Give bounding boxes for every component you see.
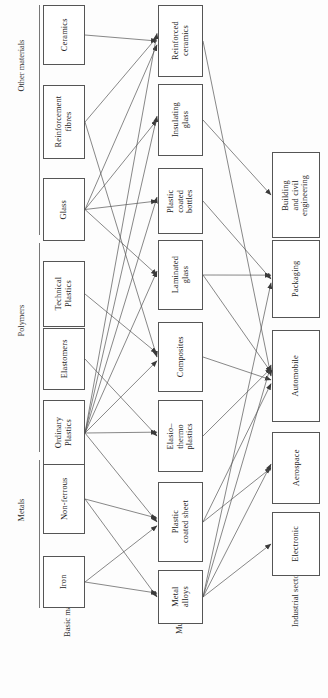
node-aerospace[interactable]: Aerospace xyxy=(272,432,320,504)
node-label-non-ferrous: Non-ferrous xyxy=(59,478,69,521)
node-technical-plastics[interactable]: Technical Plastics xyxy=(43,261,85,327)
node-composites[interactable]: Composites xyxy=(158,322,203,392)
group-label-other-materials-text: Other materials xyxy=(17,78,26,92)
node-label-technical-plastics: Technical Plastics xyxy=(54,277,73,311)
edge-laminated-glass-to-automobile xyxy=(203,275,271,372)
bracket-other-materials xyxy=(39,5,40,235)
node-label-elasto-thermo-plastics: Elasio– thermo plastics xyxy=(166,423,195,449)
bracket-polymers xyxy=(39,243,40,452)
node-label-metal-alloys: Metal alloys xyxy=(171,587,190,608)
edge-elasto-thermo-plastics-to-automobile xyxy=(203,368,271,436)
node-label-ceramics: Ceramics xyxy=(59,19,69,52)
node-label-laminated-glass: Laminated glass xyxy=(171,256,190,293)
node-packaging[interactable]: Packaging xyxy=(272,240,320,318)
column-label-basic-materials-text: Basic materials xyxy=(62,623,72,637)
node-automobile[interactable]: Automobile xyxy=(272,330,320,422)
node-label-building-civil-engineering: Building and civil engineering xyxy=(282,174,311,215)
edge-metal-alloys-to-packaging xyxy=(203,283,271,597)
node-label-iron: Iron xyxy=(59,575,69,590)
node-non-ferrous[interactable]: Non-ferrous xyxy=(43,464,85,534)
node-ordinary-plastics[interactable]: Ordinary Plastics xyxy=(43,400,85,466)
column-label-basic-materials: Basic materials xyxy=(60,625,74,685)
group-label-polymers-text: Polymers xyxy=(17,323,26,337)
edge-plastic-coated-bottles-to-packaging xyxy=(203,201,271,279)
edge-glass-to-reinforced-ceramics xyxy=(85,45,157,210)
node-label-aerospace: Aerospace xyxy=(291,450,301,487)
node-reinforcement-fibres[interactable]: Reinforcement fibres xyxy=(43,85,85,159)
edge-ordinary-plastics-to-insulating-glass xyxy=(85,116,157,433)
edge-ordinary-plastics-to-elasto-thermo-plastics xyxy=(85,432,157,433)
edge-composites-to-automobile xyxy=(203,357,271,380)
edge-ceramics-to-reinforced-ceramics xyxy=(85,35,157,41)
column-label-industrial-sectors-text: Industrial sectors xyxy=(290,613,300,627)
node-plastic-coated-bottles[interactable]: Plastic coated bottles xyxy=(158,168,203,234)
node-label-insulating-glass: Insulating glass xyxy=(171,103,190,138)
edge-plastic-coated-sheet-to-aerospace xyxy=(203,468,271,522)
diagram-canvas: Other materials Polymers Metals Basic ma… xyxy=(0,0,328,698)
node-reinforced-ceramics[interactable]: Reinforced ceramics xyxy=(158,5,203,77)
edge-glass-to-laminated-glass xyxy=(85,210,157,276)
edge-metal-alloys-to-aerospace xyxy=(203,464,271,597)
group-label-other-materials: Other materials xyxy=(14,80,28,160)
node-label-ordinary-plastics: Ordinary Plastics xyxy=(54,417,73,448)
node-label-composites: Composites xyxy=(176,336,186,377)
node-label-glass: Glass xyxy=(59,200,69,219)
bracket-metals xyxy=(39,460,40,608)
group-label-metals: Metals xyxy=(14,510,28,550)
node-metal-alloys[interactable]: Metal alloys xyxy=(158,570,203,624)
node-label-automobile: Automobile xyxy=(291,355,301,397)
column-label-industrial-sectors: Industrial sectors xyxy=(288,615,302,685)
edge-plastic-coated-sheet-to-automobile xyxy=(203,384,271,522)
edge-insulating-glass-to-building-civil-engineering xyxy=(203,120,271,195)
column-label-multimaterials: Multimaterials xyxy=(172,622,186,687)
node-elasto-thermo-plastics[interactable]: Elasio– thermo plastics xyxy=(158,400,203,472)
node-label-packaging: Packaging xyxy=(291,261,301,297)
edge-technical-plastics-to-composites xyxy=(85,294,157,353)
node-label-reinforced-ceramics: Reinforced ceramics xyxy=(171,22,190,61)
node-label-elastomers: Elastomers xyxy=(59,340,69,379)
node-plastic-coated-sheet[interactable]: Plastic coated sheet xyxy=(158,482,203,562)
node-glass[interactable]: Glass xyxy=(43,178,85,241)
node-label-electronic: Electronic xyxy=(291,526,301,562)
node-label-reinforcement-fibres: Reinforcement fibres xyxy=(54,96,73,148)
node-building-civil-engineering[interactable]: Building and civil engineering xyxy=(272,152,320,238)
edge-non-ferrous-to-metal-alloys xyxy=(85,499,157,597)
node-iron[interactable]: Iron xyxy=(43,556,85,608)
node-laminated-glass[interactable]: Laminated glass xyxy=(158,240,203,310)
node-electronic[interactable]: Electronic xyxy=(272,512,320,576)
node-elastomers[interactable]: Elastomers xyxy=(43,328,85,390)
edge-reinforced-ceramics-to-automobile xyxy=(203,41,271,376)
edge-iron-to-plastic-coated-sheet xyxy=(85,526,157,582)
edge-metal-alloys-to-automobile xyxy=(203,365,271,597)
node-insulating-glass[interactable]: Insulating glass xyxy=(158,84,203,156)
edge-ordinary-plastics-to-laminated-glass xyxy=(85,271,157,433)
edge-reinforcement-fibres-to-composites xyxy=(85,122,157,357)
node-ceramics[interactable]: Ceramics xyxy=(43,5,85,65)
group-label-polymers: Polymers xyxy=(14,325,28,375)
group-label-metals-text: Metals xyxy=(17,508,26,522)
edge-reinforcement-fibres-to-reinforced-ceramics xyxy=(85,37,157,122)
edge-glass-to-plastic-coated-bottles xyxy=(85,201,157,210)
edge-metal-alloys-to-electronic xyxy=(203,544,271,597)
edge-iron-to-metal-alloys xyxy=(85,582,157,593)
node-label-plastic-coated-bottles: Plastic coated bottles xyxy=(166,189,195,212)
node-label-plastic-coated-sheet: Plastic coated sheet xyxy=(171,501,190,544)
